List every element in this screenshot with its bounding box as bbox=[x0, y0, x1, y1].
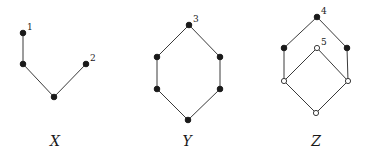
figure-x: 12X bbox=[20, 22, 96, 149]
filled-node bbox=[314, 14, 320, 20]
open-node bbox=[314, 45, 319, 50]
node-label: 4 bbox=[321, 6, 327, 16]
filled-node bbox=[83, 61, 89, 67]
edge bbox=[284, 17, 317, 48]
edge bbox=[23, 64, 54, 97]
filled-node bbox=[281, 45, 287, 51]
node-label: 5 bbox=[321, 37, 327, 47]
filled-node bbox=[344, 45, 350, 51]
filled-node bbox=[217, 54, 223, 60]
figure-y: 3Y bbox=[154, 14, 223, 149]
edge bbox=[157, 25, 189, 57]
edge bbox=[54, 64, 86, 97]
edge bbox=[316, 81, 348, 113]
edge bbox=[317, 48, 348, 81]
filled-node bbox=[20, 30, 26, 36]
figure-caption: Y bbox=[182, 133, 193, 149]
edge bbox=[284, 81, 316, 113]
filled-node bbox=[154, 86, 160, 92]
open-node bbox=[313, 110, 318, 115]
edge bbox=[188, 89, 220, 120]
filled-node bbox=[20, 61, 26, 67]
figure-caption: X bbox=[49, 133, 61, 149]
edge bbox=[347, 48, 348, 81]
filled-node bbox=[51, 94, 57, 100]
node-label: 2 bbox=[90, 53, 96, 63]
edge bbox=[157, 89, 188, 120]
figure-caption: Z bbox=[310, 133, 321, 149]
open-node bbox=[281, 78, 286, 83]
edge bbox=[284, 48, 317, 81]
filled-node bbox=[186, 22, 192, 28]
node-label: 1 bbox=[27, 22, 33, 32]
filled-node bbox=[217, 86, 223, 92]
poset-diagrams: 12X 3Y 45Z bbox=[0, 0, 367, 155]
filled-node bbox=[154, 54, 160, 60]
figure-z: 45Z bbox=[281, 6, 350, 149]
filled-node bbox=[185, 117, 191, 123]
edge bbox=[189, 25, 220, 57]
node-label: 3 bbox=[193, 14, 199, 24]
open-node bbox=[345, 78, 350, 83]
